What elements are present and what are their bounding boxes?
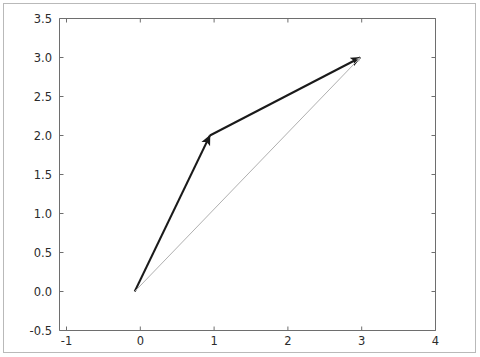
y-tick-label: 3.0 (34, 51, 52, 65)
plot-canvas: -0.5 0.0 0.5 1.0 1.5 2.0 2.5 3.0 3.5 -1 … (0, 0, 480, 357)
x-tick-label: -1 (61, 334, 72, 348)
matplotlib-figure: -0.5 0.0 0.5 1.0 1.5 2.0 2.5 3.0 3.5 -1 … (0, 0, 480, 357)
x-tick-label: 4 (432, 334, 439, 348)
x-tick-labels: -1 0 1 2 3 4 (61, 334, 439, 348)
y-tick-label: 1.5 (34, 168, 52, 182)
x-tick-label: 1 (210, 334, 217, 348)
y-tick-label: 0.0 (34, 285, 52, 299)
y-tick-labels: -0.5 0.0 0.5 1.0 1.5 2.0 2.5 3.0 3.5 (30, 12, 52, 338)
y-tick-label: 1.0 (34, 207, 52, 221)
y-tick-label: 2.5 (34, 90, 52, 104)
x-tick-label: 3 (358, 334, 365, 348)
y-tick-label: -0.5 (30, 324, 52, 338)
x-tick-label: 0 (137, 334, 144, 348)
y-tick-label: 2.0 (34, 129, 52, 143)
y-tick-label: 3.5 (34, 12, 52, 26)
x-tick-label: 2 (284, 334, 291, 348)
y-tick-label: 0.5 (34, 246, 52, 260)
